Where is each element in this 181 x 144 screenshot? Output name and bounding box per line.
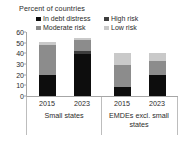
plot-area [26, 32, 178, 96]
y-tick-label: 50 [16, 39, 24, 46]
legend-swatch-in-debt-distress [36, 17, 41, 22]
bar-segment [39, 45, 56, 75]
legend-label-low-risk: Low risk [111, 24, 137, 32]
legend-swatch-high-risk [104, 17, 109, 22]
bar-segment [114, 65, 131, 87]
bar-segment [149, 75, 166, 96]
legend-item-in-debt-distress[interactable]: In debt distress [36, 15, 104, 23]
legend-swatch-moderate-risk [36, 26, 41, 31]
y-axis-ticks: 0102030405060 [0, 32, 24, 96]
y-tick-label: 60 [16, 29, 24, 36]
bar-column[interactable] [114, 53, 131, 96]
legend-label-in-debt-distress: In debt distress [43, 15, 90, 23]
legend-item-moderate-risk[interactable]: Moderate risk [36, 24, 104, 32]
bar-segment [39, 75, 56, 96]
y-tick-label: 10 [16, 82, 24, 89]
bar-segment [114, 53, 131, 65]
category-axis: 2015202320152023Small statesEMDEs excl. … [26, 97, 178, 144]
legend-label-moderate-risk: Moderate risk [43, 24, 85, 32]
group-label: EMDEs excl. small states [102, 112, 176, 129]
legend-item-low-risk[interactable]: Low risk [104, 24, 137, 32]
legend-item-high-risk[interactable]: High risk [104, 15, 138, 23]
bar-column[interactable] [149, 53, 166, 96]
legend-row-1: In debt distress High risk [36, 15, 178, 24]
x-tick-label: 2015 [39, 99, 55, 108]
x-tick-label: 2015 [114, 99, 130, 108]
category-axis-left-edge [26, 97, 27, 135]
y-tick-label: 20 [16, 71, 24, 78]
x-tick-label: 2023 [149, 99, 165, 108]
chart-container: Percent of countries In debt distress Hi… [0, 0, 181, 144]
bar-column[interactable] [39, 42, 56, 96]
x-tick-label: 2023 [74, 99, 90, 108]
bar-segment [74, 40, 91, 52]
y-tick-label: 40 [16, 50, 24, 57]
chart-title: Percent of countries [19, 4, 85, 13]
bar-segment [74, 54, 91, 96]
bar-segment [114, 87, 131, 96]
legend-label-high-risk: High risk [111, 15, 138, 23]
bar-column[interactable] [74, 38, 91, 96]
y-tick-label: 30 [16, 61, 24, 68]
bar-segment [149, 61, 166, 75]
legend-swatch-low-risk [104, 26, 109, 31]
chart-legend: In debt distress High risk Moderate risk… [36, 15, 178, 33]
group-label: Small states [28, 112, 100, 121]
bar-segment [149, 53, 166, 60]
category-axis-right-edge [177, 97, 178, 135]
